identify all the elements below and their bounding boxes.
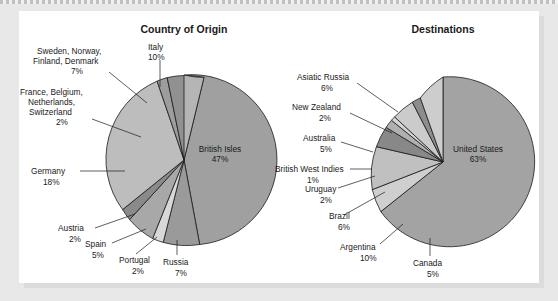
label-france-pct: 2% (56, 117, 69, 127)
leader-asiatic-russia (357, 83, 398, 112)
left-inside-label-value: 47% (212, 154, 229, 164)
label-argentina-pct: 10% (360, 253, 377, 263)
label-spain-pct: 5% (92, 250, 105, 260)
label-sweden-pct: 7% (71, 66, 84, 76)
label-british-west-indies: British West Indies (275, 164, 344, 174)
label-portugal: Portugal (119, 255, 150, 265)
label-uruguay-pct: 2% (320, 195, 333, 205)
leader-argentina (380, 224, 403, 244)
leader-australia (341, 142, 373, 152)
label-russia: Russia (163, 257, 189, 267)
right-pie (371, 77, 534, 247)
label-uruguay: Uruguay (305, 184, 337, 194)
right-chart-title: Destinations (411, 23, 474, 35)
right-inside-label-name: United States (453, 144, 503, 154)
label-asiatic-russia-pct: 6% (321, 83, 334, 93)
label-sweden-line2: Finland, Denmark (33, 56, 99, 66)
label-brazil-pct: 6% (338, 222, 351, 232)
label-asiatic-russia: Asiatic Russia (297, 72, 349, 82)
label-austria: Austria (58, 223, 84, 233)
label-brazil: Brazil (329, 211, 350, 221)
label-france-line2: Netherlands, (28, 97, 75, 107)
label-canada: Canada (413, 258, 442, 268)
label-canada-pct: 5% (427, 269, 440, 279)
label-italy: Italy (148, 42, 164, 52)
label-russia-pct: 7% (175, 268, 188, 278)
label-argentina: Argentina (340, 242, 376, 252)
left-chart-title: Country of Origin (141, 23, 228, 35)
left-pie (106, 75, 277, 246)
label-australia-pct: 5% (320, 144, 333, 154)
leader-sweden (109, 72, 147, 103)
label-spain: Spain (85, 239, 107, 249)
label-germany-pct: 18% (43, 177, 60, 187)
label-germany: Germany (31, 166, 66, 176)
leader-spain (112, 229, 146, 243)
leader-austria (95, 214, 135, 228)
label-france-line3: Switzerland (29, 107, 72, 117)
right-inside-label-value: 63% (470, 154, 487, 164)
leader-new-zealand (350, 113, 392, 133)
label-italy-pct: 10% (148, 52, 165, 62)
leader-portugal (136, 237, 157, 254)
pie-charts-figure: Country of Origin British Isles 47% Ital… (0, 0, 558, 301)
label-france-line1: France, Belgium, (20, 87, 83, 97)
left-inside-label-name: British Isles (199, 144, 241, 154)
label-new-zealand-pct: 2% (319, 113, 332, 123)
label-australia: Australia (303, 133, 336, 143)
label-sweden-line1: Sweden, Norway, (37, 46, 101, 56)
leader-uruguay (338, 176, 375, 188)
label-portugal-pct: 2% (132, 266, 145, 276)
label-new-zealand: New Zealand (292, 102, 341, 112)
label-austria-pct: 2% (69, 234, 82, 244)
